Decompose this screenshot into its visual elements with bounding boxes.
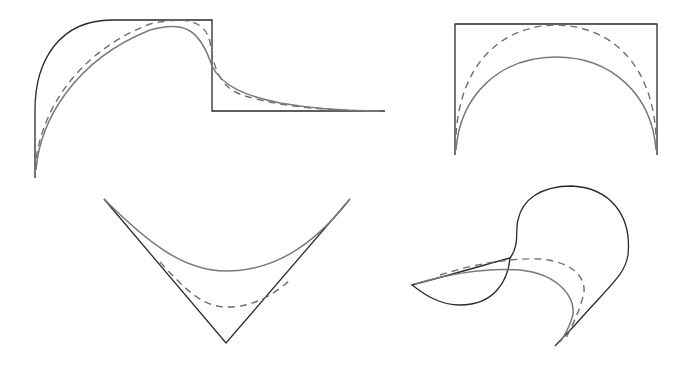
diagram-canvas [0,0,675,379]
box-smooth-approximation [456,57,656,150]
panel-box [455,24,657,155]
panel-step [35,20,385,178]
vee-dashed-approximation [160,262,290,307]
vee-smooth-approximation [104,199,350,271]
loop-target-outline [412,258,510,305]
box-target-outline [455,24,657,155]
panel-vee [104,199,350,343]
loop-smooth-approximation [415,270,573,342]
loop-target-circle [510,186,628,346]
step-smooth-approximation [36,26,380,170]
box-dashed-approximation [456,25,656,135]
panel-loop [412,186,628,346]
step-dashed-approximation [35,20,370,170]
loop-dashed-approximation [440,259,584,338]
